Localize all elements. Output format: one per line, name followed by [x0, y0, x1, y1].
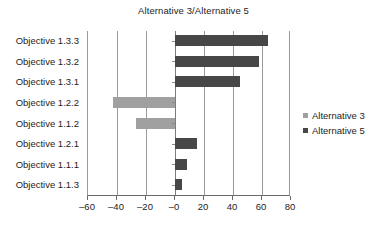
category-label: Objective 1.2.2	[16, 93, 79, 114]
x-axis-tick-label: 80	[275, 201, 305, 212]
x-axis-tick	[261, 196, 262, 200]
category-tick	[172, 102, 175, 103]
category-label: Objective 1.3.1	[16, 72, 79, 93]
bar-row	[88, 175, 289, 196]
bar-row	[88, 155, 289, 176]
x-axis-tick-label: –40	[101, 201, 131, 212]
x-axis-tick	[203, 196, 204, 200]
bar[interactable]	[175, 56, 259, 67]
legend-swatch-icon	[303, 113, 308, 118]
x-axis-tick	[232, 196, 233, 200]
bar[interactable]	[175, 179, 182, 190]
bar[interactable]	[175, 138, 197, 149]
category-label: Objective 1.1.3	[16, 175, 79, 196]
plot-area	[87, 31, 290, 196]
bar-row	[88, 72, 289, 93]
x-axis-tick-label: 60	[246, 201, 276, 212]
bar[interactable]	[175, 35, 268, 46]
x-axis-tick	[116, 196, 117, 200]
category-tick	[172, 144, 175, 145]
category-tick	[172, 123, 175, 124]
legend-label: Alternative 5	[312, 125, 365, 136]
bar[interactable]	[113, 97, 175, 108]
x-axis-tick	[290, 196, 291, 200]
category-tick	[172, 82, 175, 83]
chart-title: Alternative 3/Alternative 5	[0, 5, 387, 16]
x-axis-tick	[87, 196, 88, 200]
x-axis-tick-label: –0	[159, 201, 189, 212]
category-tick	[172, 185, 175, 186]
legend-label: Alternative 3	[312, 110, 365, 121]
x-axis-tick-label: –20	[130, 201, 160, 212]
bar-row	[88, 31, 289, 52]
category-tick	[172, 41, 175, 42]
x-axis-tick-label: –60	[72, 201, 102, 212]
bar-row	[88, 93, 289, 114]
category-label: Objective 1.3.3	[16, 31, 79, 52]
legend-item[interactable]: Alternative 5	[303, 123, 365, 138]
category-axis-labels: Objective 1.3.3Objective 1.3.2Objective …	[0, 31, 83, 196]
bar-row	[88, 134, 289, 155]
bar-row	[88, 114, 289, 135]
category-tick	[172, 61, 175, 62]
legend-item[interactable]: Alternative 3	[303, 108, 365, 123]
x-axis-tick	[145, 196, 146, 200]
bar[interactable]	[175, 159, 187, 170]
bar[interactable]	[175, 76, 240, 87]
bar-row	[88, 52, 289, 73]
bar-chart: Alternative 3/Alternative 5 Objective 1.…	[0, 0, 387, 232]
category-label: Objective 1.1.2	[16, 114, 79, 135]
chart-legend: Alternative 3Alternative 5	[303, 108, 365, 138]
x-axis-tick	[174, 196, 175, 200]
category-label: Objective 1.2.1	[16, 134, 79, 155]
x-axis-tick-label: 20	[188, 201, 218, 212]
bar[interactable]	[136, 118, 175, 129]
category-tick	[172, 164, 175, 165]
legend-swatch-icon	[303, 128, 308, 133]
category-label: Objective 1.3.2	[16, 52, 79, 73]
x-axis-tick-label: 40	[217, 201, 247, 212]
category-label: Objective 1.1.1	[16, 155, 79, 176]
